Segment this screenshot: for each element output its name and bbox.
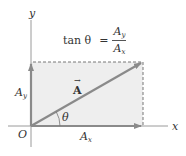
vector-diagram bbox=[0, 0, 186, 156]
equation-equals: = bbox=[99, 34, 108, 47]
x-component-label: Ax bbox=[80, 131, 92, 144]
vector-a-label: → A bbox=[73, 78, 82, 97]
fraction-numerator: Ay bbox=[113, 25, 125, 39]
fraction-denominator: Ax bbox=[113, 42, 125, 56]
y-component-label: Ay bbox=[15, 87, 27, 100]
y-axis-label: y bbox=[29, 8, 35, 19]
equation-lhs: tan θ bbox=[63, 34, 91, 47]
x-axis-label: x bbox=[172, 121, 178, 132]
equation-fraction: Ay Ax bbox=[112, 25, 126, 56]
tangent-equation: tan θ = Ay Ax bbox=[63, 25, 126, 56]
origin-label: O bbox=[18, 129, 27, 140]
angle-label: θ bbox=[62, 112, 69, 123]
